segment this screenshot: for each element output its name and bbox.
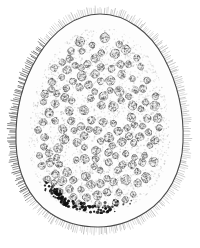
cell xyxy=(123,151,129,157)
cell xyxy=(121,45,130,54)
cell xyxy=(108,65,115,72)
cell xyxy=(51,100,59,108)
granule xyxy=(45,188,47,190)
cell xyxy=(86,126,93,133)
granule xyxy=(79,208,82,211)
granule xyxy=(59,190,61,192)
cell xyxy=(97,167,103,173)
cell xyxy=(139,85,147,93)
cell xyxy=(79,105,89,115)
cell xyxy=(45,108,54,117)
cell xyxy=(128,101,137,110)
granule xyxy=(61,196,64,199)
granule xyxy=(72,201,75,204)
granule xyxy=(117,200,119,202)
cell xyxy=(127,113,136,122)
figure-container: Ink drawing of an ovoid ciliated organis… xyxy=(0,0,200,248)
granule xyxy=(82,205,84,207)
cell xyxy=(73,157,79,163)
granule xyxy=(100,209,102,211)
granule xyxy=(54,197,56,199)
granule xyxy=(54,192,57,195)
granule xyxy=(116,204,119,207)
cell xyxy=(122,196,129,203)
cell xyxy=(52,117,59,124)
granule xyxy=(51,192,54,195)
cell xyxy=(80,154,89,163)
granule xyxy=(65,197,67,199)
cell xyxy=(125,61,132,68)
cell xyxy=(75,37,85,47)
granule xyxy=(82,202,86,206)
cell xyxy=(46,158,55,167)
cell xyxy=(43,176,51,183)
cell xyxy=(87,95,94,102)
cell xyxy=(104,175,110,181)
granule xyxy=(106,205,109,208)
granule xyxy=(50,188,52,190)
cell xyxy=(51,180,57,186)
granule xyxy=(98,209,100,211)
cell xyxy=(107,87,114,94)
cell xyxy=(40,99,46,105)
granule xyxy=(88,205,92,209)
cell xyxy=(97,63,105,71)
cell xyxy=(81,144,87,150)
cell xyxy=(56,161,63,168)
cell xyxy=(150,101,160,111)
cell xyxy=(63,85,70,92)
cell xyxy=(141,173,151,183)
cell xyxy=(125,132,133,140)
cell xyxy=(103,188,111,196)
cell xyxy=(112,153,118,159)
cell xyxy=(68,97,75,104)
cell xyxy=(141,152,147,158)
cell xyxy=(147,143,153,149)
cell xyxy=(62,168,71,177)
granule xyxy=(44,184,46,186)
granule xyxy=(51,185,54,188)
granule xyxy=(68,205,70,207)
granule xyxy=(104,201,107,204)
cell xyxy=(128,161,136,169)
cell xyxy=(130,139,137,146)
cell xyxy=(130,191,136,197)
cell xyxy=(145,129,152,136)
cell xyxy=(98,50,105,57)
cell xyxy=(67,47,74,54)
cell xyxy=(58,125,67,134)
organism-cross-section-drawing xyxy=(0,0,200,248)
cell xyxy=(53,90,60,97)
cell xyxy=(92,155,99,162)
granule xyxy=(102,207,104,209)
granule xyxy=(104,207,107,210)
cell xyxy=(41,133,49,141)
cell xyxy=(99,91,108,100)
granule xyxy=(45,181,47,183)
cell xyxy=(72,62,78,68)
cell xyxy=(79,48,85,54)
cell xyxy=(109,143,116,149)
cell xyxy=(36,153,42,159)
cell xyxy=(77,71,87,81)
cell xyxy=(99,33,109,43)
cell xyxy=(77,122,85,130)
cell xyxy=(153,113,162,122)
cell xyxy=(63,66,71,74)
cell xyxy=(104,133,114,143)
cell xyxy=(124,125,131,132)
cell xyxy=(125,93,132,100)
cell xyxy=(87,116,95,124)
cell xyxy=(89,42,95,48)
cell xyxy=(119,161,127,169)
cell xyxy=(35,127,42,134)
cell xyxy=(84,81,93,90)
cell xyxy=(138,106,144,112)
cell xyxy=(65,107,74,116)
cell xyxy=(67,117,75,125)
granule xyxy=(94,205,96,207)
cell xyxy=(152,93,159,100)
cell xyxy=(57,176,66,185)
granule xyxy=(58,194,61,197)
cell xyxy=(151,136,159,144)
